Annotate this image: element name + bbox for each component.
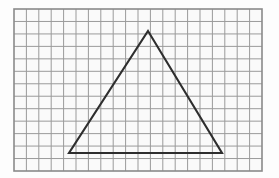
grid-triangle-figure: Triangle drawn on square grid paper [0,0,279,178]
grid-group [14,9,262,171]
figure-container: Triangle drawn on square grid paper [0,0,279,178]
